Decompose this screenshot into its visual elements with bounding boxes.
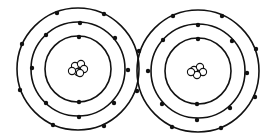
electron	[30, 66, 34, 70]
electron	[228, 106, 232, 110]
electron	[113, 36, 117, 40]
electron	[20, 42, 24, 46]
electron	[77, 35, 81, 39]
electron	[77, 115, 81, 119]
electron	[102, 124, 106, 128]
nucleon	[187, 68, 194, 75]
electron	[196, 23, 200, 27]
atoms-group	[17, 8, 259, 132]
electron	[146, 69, 150, 73]
left-atom	[17, 8, 141, 130]
electron	[196, 37, 200, 41]
electron	[112, 101, 116, 105]
electron	[245, 71, 249, 75]
electron	[253, 95, 257, 99]
electron	[170, 125, 174, 129]
bohr-diagram	[0, 0, 273, 140]
electron	[195, 118, 199, 122]
electron	[219, 126, 223, 130]
nucleon	[76, 69, 83, 76]
electron	[18, 88, 22, 92]
electron	[195, 102, 199, 106]
right-atom	[137, 10, 259, 132]
electron	[77, 100, 81, 104]
electron	[44, 33, 48, 37]
electron	[220, 14, 224, 18]
electron	[102, 12, 106, 16]
nucleus	[187, 63, 206, 78]
electron	[126, 68, 130, 72]
electron	[135, 89, 139, 93]
electron	[254, 47, 258, 51]
nucleus	[68, 60, 87, 76]
electron	[171, 14, 175, 18]
electron	[161, 38, 165, 42]
electron	[44, 101, 48, 105]
electron	[160, 102, 164, 106]
electron	[78, 21, 82, 25]
electron	[55, 11, 59, 15]
electron	[51, 123, 55, 127]
nucleon	[68, 67, 75, 74]
electron	[230, 39, 234, 43]
